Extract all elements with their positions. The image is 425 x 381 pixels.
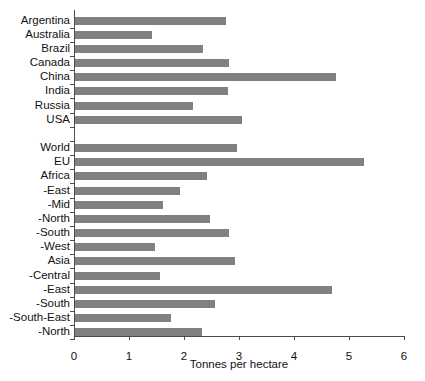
x-tick [239, 336, 240, 340]
y-tick [70, 70, 74, 71]
bar [75, 215, 210, 223]
x-tick [129, 336, 130, 340]
bar [75, 158, 364, 166]
y-tick [70, 113, 74, 114]
category-label: EU [0, 156, 70, 168]
x-axis-title: Tonnes per hectare [74, 358, 404, 371]
category-label: -North [0, 213, 70, 225]
bar [75, 31, 152, 39]
y-tick [70, 325, 74, 326]
bar [75, 201, 163, 209]
y-tick [70, 268, 74, 269]
bar [75, 257, 235, 265]
category-label: -South [0, 227, 70, 239]
y-tick [70, 240, 74, 241]
bar [75, 286, 332, 294]
category-label: India [0, 85, 70, 97]
y-tick [70, 127, 74, 128]
category-label: -East [0, 185, 70, 197]
bar [75, 229, 229, 237]
category-label: -West [0, 241, 70, 253]
category-axis-labels: ArgentinaAustraliaBrazilCanadaChinaIndia… [0, 10, 70, 336]
y-tick [70, 155, 74, 156]
bar [75, 102, 193, 110]
x-tick [294, 336, 295, 340]
category-label: China [0, 71, 70, 83]
category-label: -South [0, 298, 70, 310]
y-tick [70, 254, 74, 255]
bar [75, 45, 203, 53]
bar [75, 187, 180, 195]
y-tick [70, 212, 74, 213]
category-label: Brazil [0, 43, 70, 55]
bar [75, 73, 336, 81]
category-label: Africa [0, 170, 70, 182]
bar [75, 17, 226, 25]
category-label: -Central [0, 270, 70, 282]
category-label: Asia [0, 255, 70, 267]
y-tick [70, 56, 74, 57]
x-tick [74, 336, 75, 340]
category-label: -North [0, 326, 70, 338]
y-tick [70, 141, 74, 142]
category-label: -South-East [0, 312, 70, 324]
bar [75, 300, 215, 308]
x-tick [349, 336, 350, 340]
category-label: -East [0, 284, 70, 296]
y-tick [70, 311, 74, 312]
category-label: Russia [0, 100, 70, 112]
y-tick [70, 198, 74, 199]
y-tick [70, 98, 74, 99]
bar-chart: ArgentinaAustraliaBrazilCanadaChinaIndia… [0, 0, 425, 381]
bar [75, 116, 242, 124]
category-label: Argentina [0, 15, 70, 27]
bar [75, 59, 229, 67]
plot-area: 0123456 [74, 10, 404, 336]
bar [75, 314, 171, 322]
y-tick [70, 226, 74, 227]
category-label: World [0, 142, 70, 154]
bar [75, 172, 207, 180]
x-tick [184, 336, 185, 340]
y-tick [70, 183, 74, 184]
bar [75, 272, 160, 280]
bar [75, 328, 202, 336]
y-tick [70, 169, 74, 170]
bar [75, 243, 155, 251]
bar [75, 87, 228, 95]
category-label: -Mid [0, 199, 70, 211]
category-label: Australia [0, 29, 70, 41]
y-tick [70, 84, 74, 85]
y-tick [70, 28, 74, 29]
y-tick [70, 42, 74, 43]
x-tick [404, 336, 405, 340]
y-tick [70, 283, 74, 284]
category-label: Canada [0, 57, 70, 69]
y-tick [70, 297, 74, 298]
bar [75, 144, 237, 152]
category-label: USA [0, 114, 70, 126]
